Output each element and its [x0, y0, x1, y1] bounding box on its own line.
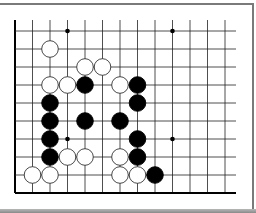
black-stone [129, 95, 146, 112]
white-stone [129, 167, 146, 184]
black-stone [129, 149, 146, 166]
black-stone [112, 113, 129, 130]
white-stone [42, 167, 59, 184]
stones-layer [24, 41, 163, 184]
white-stone [59, 77, 76, 94]
star-point [65, 29, 70, 34]
black-stone [42, 131, 59, 148]
white-stone [59, 149, 76, 166]
star-point [65, 137, 70, 142]
black-stone [129, 131, 146, 148]
white-stone [112, 167, 129, 184]
star-point [170, 29, 175, 34]
white-stone [112, 149, 129, 166]
white-stone [77, 59, 94, 76]
white-stone [42, 77, 59, 94]
go-board [0, 0, 256, 213]
black-stone [42, 113, 59, 130]
black-stone [77, 77, 94, 94]
white-stone [77, 149, 94, 166]
white-stone [42, 41, 59, 58]
diagram-frame [0, 0, 256, 213]
black-stone [129, 77, 146, 94]
black-stone [42, 95, 59, 112]
black-stone [147, 167, 164, 184]
white-stone [112, 77, 129, 94]
black-stone [42, 149, 59, 166]
white-stone [24, 167, 41, 184]
black-stone [77, 113, 94, 130]
star-point [170, 137, 175, 142]
white-stone [94, 59, 111, 76]
